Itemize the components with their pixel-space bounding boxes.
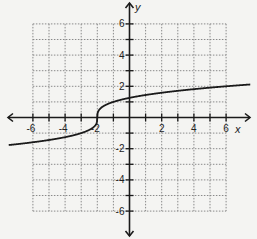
cube-root-graph: -6-4-2246642-2-4-6 x y [0,0,257,239]
y-axis-label: y [134,1,142,13]
y-tick-label: -2 [116,143,125,154]
x-axis-label: x [234,123,241,135]
x-tick-label: 2 [159,123,165,134]
y-tick-label: 6 [119,18,125,29]
y-tick-label: 2 [119,81,125,92]
x-tick-label: -4 [59,123,68,134]
x-tick-label: 6 [223,123,229,134]
y-tick-label: 4 [119,50,125,61]
x-tick-label: -6 [26,123,35,134]
y-tick-label: -4 [116,174,125,185]
x-tick-label: 4 [191,123,197,134]
y-tick-label: -6 [116,206,125,217]
axes [8,3,250,236]
